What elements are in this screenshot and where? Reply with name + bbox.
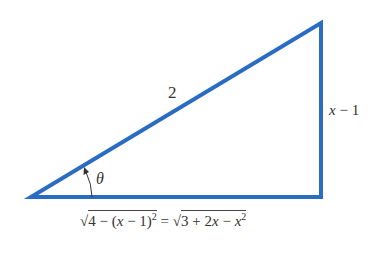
angle-arc-icon [86,172,92,197]
vertical-side-rest: − 1 [336,102,359,118]
angle-theta-label: θ [96,170,104,188]
radicand-right-x1: x [212,213,219,229]
radicand-right-b: − [219,213,235,229]
radicand-right: 3 + 2x − x2 [181,210,246,229]
triangle [31,23,321,197]
radicand-left: 4 − (x − 1)2 [88,210,157,229]
radicand-left-a: 4 − ( [88,213,116,229]
vertical-side-label: x − 1 [329,102,359,119]
radicand-right-exp: 2 [241,211,246,222]
hypotenuse-label: 2 [168,83,177,103]
radicand-left-b: − 1) [123,213,151,229]
angle-arrowhead-icon [84,167,90,175]
radicand-right-a: 3 + 2 [181,213,212,229]
sqrt-symbol-right: √ [173,213,181,229]
vertical-side-var: x [329,102,336,118]
base-side-label: √4 − (x − 1)2 = √3 + 2x − x2 [80,210,246,230]
sqrt-symbol-left: √ [80,213,88,229]
equals-sign: = [157,213,173,229]
right-triangle-diagram: 2 x − 1 θ √4 − (x − 1)2 = √3 + 2x − x2 [0,0,379,257]
